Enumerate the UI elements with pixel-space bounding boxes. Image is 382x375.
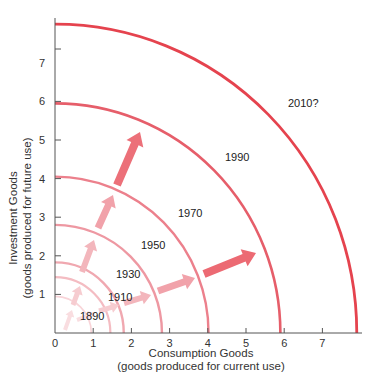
ppf-curve-2010 [55,24,357,333]
y-tick-label: 7 [39,57,45,69]
growth-arrow-icon [157,274,195,294]
x-tick-label: 1 [90,337,96,349]
y-tick-label: 1 [39,288,45,300]
growth-arrow-icon [203,249,257,277]
y-tick-label: 5 [39,134,45,146]
ppf-curves [55,24,357,333]
x-tick-label: 2 [128,337,134,349]
ppf-chart: 01234567 1234567 18901910193019501970199… [0,0,382,375]
x-tick-label: 6 [281,337,287,349]
y-axis-title: Investment Goods [7,171,19,265]
y-tick-label: 3 [39,211,45,223]
ppf-curve-1970 [55,177,209,333]
growth-arrow-icon [113,132,143,187]
curve-label-2010: 2010? [288,97,319,109]
ppf-curve-1910 [55,277,110,333]
y-tick-label: 6 [39,95,45,107]
growth-arrow-icon [95,195,116,229]
x-tick-label: 7 [319,337,325,349]
y-tick-label: 2 [39,250,45,262]
x-axis-title: Consumption Goods [149,347,254,359]
curve-label-1930: 1930 [116,268,140,280]
ppf-curve-1990 [55,103,280,333]
x-axis-subtitle: (goods produced for current use) [117,360,285,372]
curve-label-1970: 1970 [178,207,202,219]
growth-arrow-icon [79,240,97,273]
curve-label-1890: 1890 [80,310,104,322]
curve-label-1910: 1910 [108,291,132,303]
x-tick-label: 0 [52,337,58,349]
curve-label-1990: 1990 [225,151,249,163]
y-tick-label: 4 [39,173,45,185]
growth-arrow-icon [63,310,74,331]
x-ticks: 01234567 [52,328,326,349]
curve-label-1950: 1950 [141,239,165,251]
y-axis-subtitle: (goods produced for future use) [21,137,33,298]
